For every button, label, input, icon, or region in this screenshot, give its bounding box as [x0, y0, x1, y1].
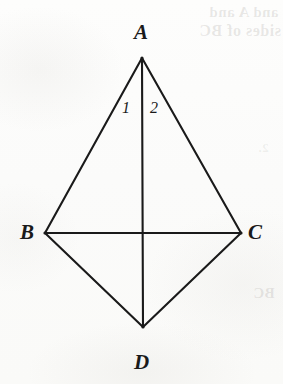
edge-a-c	[142, 58, 241, 233]
diagonal-a-d	[142, 58, 143, 327]
geometry-figure	[0, 0, 283, 384]
vertex-label-d: D	[134, 352, 149, 373]
edge-c-d	[143, 233, 241, 327]
edge-a-b	[45, 58, 142, 233]
edge-b-d	[45, 233, 143, 327]
angle-label-2: 2	[150, 100, 158, 116]
vertex-label-c: C	[248, 222, 262, 243]
angle-label-1: 1	[122, 100, 130, 116]
vertex-point-d	[141, 325, 144, 328]
vertex-label-b: B	[20, 222, 34, 243]
vertex-point-a	[140, 56, 143, 59]
scanned-figure-page: and A and sides of BC BC 2. A B C D 1 2	[0, 0, 283, 384]
vertex-point-c	[239, 231, 242, 234]
vertex-label-a: A	[134, 22, 148, 43]
vertex-point-b	[43, 231, 46, 234]
